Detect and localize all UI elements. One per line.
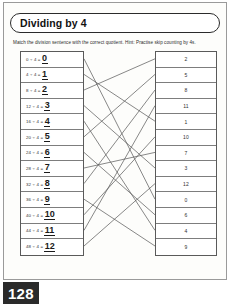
quotient-cell[interactable]: 7 xyxy=(156,146,216,162)
division-answer-text: 2 xyxy=(42,85,48,95)
division-sentence-text: 48 ÷ 4 = xyxy=(26,244,43,249)
quotient-value-text: 12 xyxy=(183,181,189,187)
division-sentence-cell[interactable]: 12 ÷ 4 =3 xyxy=(21,99,83,115)
matching-exercise: 0 ÷ 4 =04 ÷ 4 =18 ÷ 4 =212 ÷ 4 =316 ÷ 4 … xyxy=(4,3,228,281)
match-line xyxy=(84,90,155,184)
division-answer-text: 8 xyxy=(44,179,50,189)
division-sentence-cell[interactable]: 24 ÷ 4 =6 xyxy=(21,146,83,162)
division-sentence-text: 12 ÷ 4 = xyxy=(26,104,43,109)
quotient-cell[interactable]: 1 xyxy=(156,114,216,130)
division-answer-text: 12 xyxy=(44,242,55,252)
quotient-cell[interactable]: 3 xyxy=(156,161,216,177)
quotient-value-text: 3 xyxy=(185,165,188,171)
quotient-value-text: 4 xyxy=(185,228,188,234)
page-number: 128 xyxy=(8,285,34,302)
division-sentence-text: 36 ÷ 4 = xyxy=(26,197,43,202)
division-sentence-text: 24 ÷ 4 = xyxy=(26,150,43,155)
match-line xyxy=(84,184,155,246)
division-sentence-cell[interactable]: 28 ÷ 4 =7 xyxy=(21,161,83,177)
division-answer-text: 11 xyxy=(44,226,55,236)
match-line xyxy=(84,59,155,199)
division-answer-text: 3 xyxy=(44,101,50,111)
quotient-cell[interactable]: 12 xyxy=(156,177,216,193)
worksheet-page: Dividing by 4 Match the division sentenc… xyxy=(3,2,227,280)
division-sentence-text: 28 ÷ 4 = xyxy=(26,166,43,171)
division-sentence-text: 44 ÷ 4 = xyxy=(26,228,43,233)
division-answer-text: 9 xyxy=(44,195,50,205)
match-line xyxy=(84,59,155,90)
division-sentence-cell[interactable]: 40 ÷ 4 =10 xyxy=(21,208,83,224)
quotient-value-text: 0 xyxy=(185,197,188,203)
division-sentence-cell[interactable]: 32 ÷ 4 =8 xyxy=(21,177,83,193)
match-line xyxy=(84,152,155,214)
division-sentence-cell[interactable]: 4 ÷ 4 =1 xyxy=(21,68,83,84)
division-sentence-cell[interactable]: 8 ÷ 4 =2 xyxy=(21,83,83,99)
division-answer-text: 5 xyxy=(44,132,50,142)
division-sentence-text: 32 ÷ 4 = xyxy=(26,182,43,187)
match-line xyxy=(84,106,155,168)
quotient-cell[interactable]: 11 xyxy=(156,99,216,115)
division-answer-text: 6 xyxy=(44,148,50,158)
match-line xyxy=(84,152,155,168)
division-sentence-cell[interactable]: 20 ÷ 4 =5 xyxy=(21,130,83,146)
division-sentence-text: 4 ÷ 4 = xyxy=(26,72,41,77)
page-number-badge: 128 xyxy=(3,282,39,304)
division-sentence-text: 8 ÷ 4 = xyxy=(26,88,41,93)
quotient-value-text: 6 xyxy=(185,212,188,218)
quotient-value-text: 1 xyxy=(185,119,188,125)
division-sentence-cell[interactable]: 0 ÷ 4 =0 xyxy=(21,52,83,68)
match-line xyxy=(84,137,155,215)
division-sentence-cell[interactable]: 36 ÷ 4 =9 xyxy=(21,192,83,208)
quotient-value-text: 2 xyxy=(185,56,188,62)
division-sentence-cell[interactable]: 16 ÷ 4 =4 xyxy=(21,114,83,130)
quotient-column: 2581111073120649 xyxy=(155,51,217,256)
division-sentence-text: 16 ÷ 4 = xyxy=(26,119,43,124)
match-line xyxy=(84,74,155,121)
division-answer-text: 7 xyxy=(44,163,50,173)
division-sentence-text: 0 ÷ 4 = xyxy=(26,57,41,62)
division-sentence-cell[interactable]: 44 ÷ 4 =11 xyxy=(21,224,83,240)
division-sentence-text: 20 ÷ 4 = xyxy=(26,135,43,140)
division-answer-text: 1 xyxy=(42,70,48,80)
quotient-value-text: 7 xyxy=(185,150,188,156)
quotient-value-text: 9 xyxy=(185,244,188,250)
match-line xyxy=(84,74,155,136)
quotient-cell[interactable]: 4 xyxy=(156,224,216,240)
quotient-value-text: 8 xyxy=(185,87,188,93)
division-answer-text: 10 xyxy=(44,210,55,220)
quotient-cell[interactable]: 9 xyxy=(156,239,216,255)
quotient-cell[interactable]: 0 xyxy=(156,192,216,208)
match-line xyxy=(84,106,155,231)
quotient-cell[interactable]: 2 xyxy=(156,52,216,68)
quotient-cell[interactable]: 10 xyxy=(156,130,216,146)
quotient-value-text: 10 xyxy=(183,134,189,140)
match-line xyxy=(84,121,155,230)
quotient-cell[interactable]: 5 xyxy=(156,68,216,84)
match-line xyxy=(84,199,155,246)
quotient-cell[interactable]: 6 xyxy=(156,208,216,224)
division-sentence-cell[interactable]: 48 ÷ 4 =12 xyxy=(21,239,83,255)
division-sentence-text: 40 ÷ 4 = xyxy=(26,213,43,218)
quotient-cell[interactable]: 8 xyxy=(156,83,216,99)
quotient-value-text: 11 xyxy=(183,103,189,109)
division-sentence-column: 0 ÷ 4 =04 ÷ 4 =18 ÷ 4 =212 ÷ 4 =316 ÷ 4 … xyxy=(20,51,84,256)
quotient-value-text: 5 xyxy=(185,72,188,78)
division-answer-text: 4 xyxy=(44,117,50,127)
division-answer-text: 0 xyxy=(42,54,48,64)
